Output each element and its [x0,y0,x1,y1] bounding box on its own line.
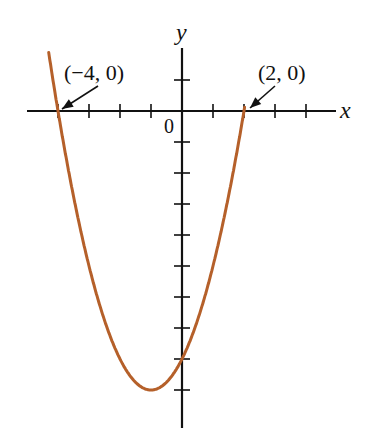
annotations [62,86,275,109]
annotation-right-root: (2, 0) [258,60,306,85]
arrow-head-icon [62,99,74,109]
axes [27,48,336,428]
annotation-left-root: (−4, 0) [64,60,124,85]
y-axis-label: y [174,19,187,45]
parabola-chart: x y 0 (−4, 0) (2, 0) [0,0,372,448]
x-axis-label: x [339,97,351,123]
parabola-curve [49,52,245,390]
origin-label: 0 [164,115,174,137]
